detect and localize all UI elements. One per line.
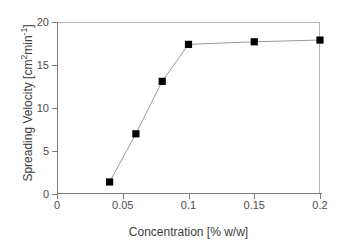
data-point-marker [106,178,113,185]
x-tick-label: 0.05 [103,199,143,212]
x-tick-label: 0.2 [300,199,340,212]
y-tick-mark [52,151,57,152]
y-axis-title-prefix: Spreading Velocity [cm [21,60,35,182]
series-markers-group [106,36,324,185]
x-tick-label: 0 [37,199,77,212]
data-point-marker [185,41,192,48]
y-tick-mark [52,22,57,23]
data-point-marker [132,130,139,137]
y-tick-mark [52,108,57,109]
y-axis-title-mid: min [21,35,35,54]
y-tick-mark [52,194,57,195]
data-point-marker [316,36,323,43]
series-line-spreading-velocity [110,40,320,182]
x-axis-title: Concentration [% w/w] [57,225,320,239]
data-point-marker [251,38,258,45]
data-point-marker [159,78,166,85]
chart-figure: 00.050.10.150.2 05101520 Concentration [… [0,0,344,252]
x-tick-label: 0.15 [234,199,274,212]
y-axis-title-sup-exponent: -1 [19,28,29,36]
y-axis-title-sup-area: 2 [19,55,29,60]
x-tick-label: 0.1 [169,199,209,212]
y-axis-title: Spreading Velocity [cm2min-1] [21,3,35,203]
data-series-layer [57,22,320,194]
y-axis-title-suffix: ] [21,24,35,27]
y-tick-mark [52,65,57,66]
